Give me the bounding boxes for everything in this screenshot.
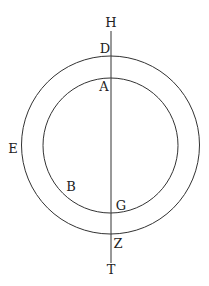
label-D: D: [100, 41, 110, 56]
label-T: T: [107, 262, 116, 277]
label-G: G: [116, 198, 126, 213]
label-A: A: [98, 79, 109, 94]
label-Z: Z: [113, 236, 122, 251]
geometric-diagram: H D A E B G Z T: [0, 0, 209, 286]
label-H: H: [105, 15, 116, 30]
label-E: E: [8, 141, 18, 156]
label-B: B: [66, 179, 76, 194]
